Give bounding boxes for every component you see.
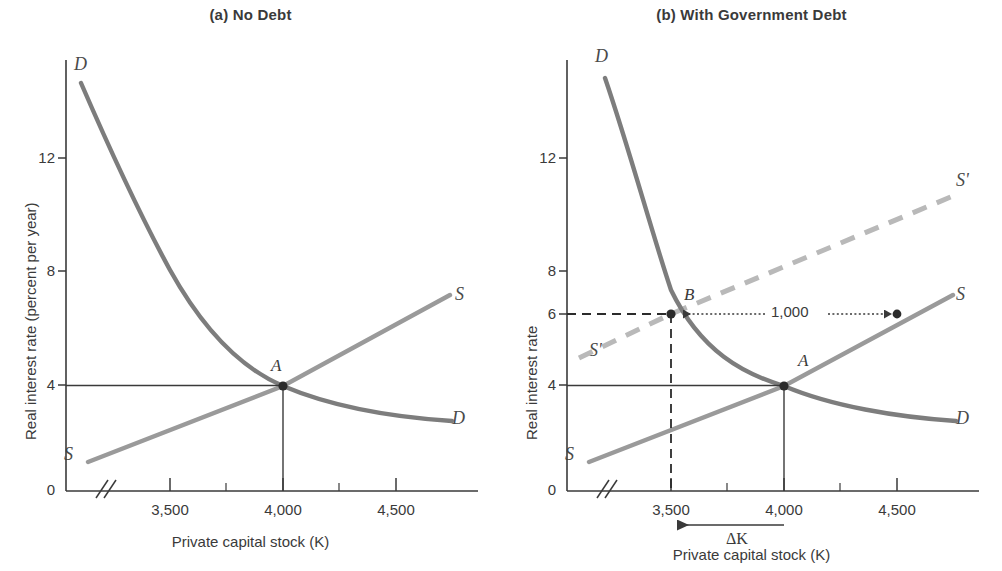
panel-no-debt: (a) No Debt Real interest rate (percent … bbox=[0, 0, 501, 571]
panel-b-plot bbox=[501, 0, 1002, 571]
panel-b-axis-break-icon bbox=[597, 480, 617, 498]
panel-b-point-4500-marker bbox=[893, 310, 902, 319]
panel-b-point-b-marker bbox=[666, 309, 675, 318]
panel-b-point-a-marker bbox=[779, 381, 788, 390]
figure-root: (a) No Debt Real interest rate (percent … bbox=[0, 0, 1002, 571]
panel-a-demand-curve bbox=[81, 83, 452, 421]
panel-b-demand-curve bbox=[605, 78, 956, 421]
panel-a-y-ticks bbox=[58, 158, 66, 385]
panel-a-point-a-marker bbox=[278, 381, 287, 390]
panel-a-plot bbox=[0, 0, 501, 571]
panel-a-axis-break-icon bbox=[96, 480, 116, 498]
panel-b-supply-shifted-curve bbox=[579, 196, 953, 358]
panel-with-government-debt: (b) With Government Debt Real interest r… bbox=[501, 0, 1002, 571]
panel-b-y-ticks bbox=[559, 158, 567, 385]
panel-b-supply-curve bbox=[589, 295, 953, 462]
